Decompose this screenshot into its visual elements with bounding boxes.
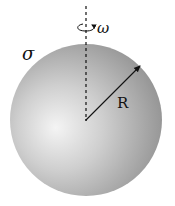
center-point	[85, 119, 87, 121]
radius-label: R	[117, 94, 129, 112]
omega-label: ω	[97, 19, 109, 37]
sigma-label: σ	[22, 43, 35, 64]
sphere-diagram: ω σ R	[0, 0, 175, 206]
diagram-canvas: ω σ R	[0, 0, 175, 206]
